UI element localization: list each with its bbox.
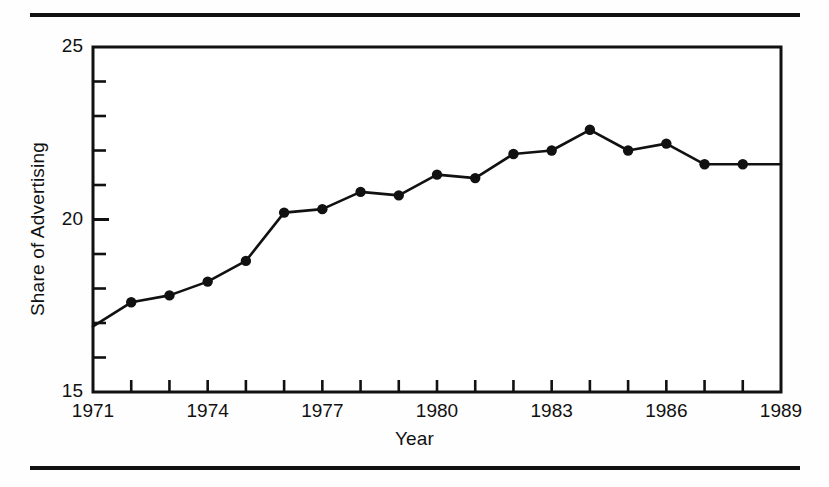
x-tick-label: 1977 — [287, 400, 357, 422]
data-point — [623, 145, 633, 155]
x-tick-label: 1989 — [746, 400, 816, 422]
data-point — [279, 207, 289, 217]
y-tick-label: 25 — [43, 35, 83, 57]
data-point — [738, 159, 748, 169]
data-point — [355, 187, 365, 197]
data-point — [394, 190, 404, 200]
data-point — [126, 297, 136, 307]
data-point — [432, 169, 442, 179]
data-point — [661, 138, 671, 148]
x-tick-label: 1983 — [517, 400, 587, 422]
x-tick-label: 1974 — [173, 400, 243, 422]
data-point — [241, 256, 251, 266]
x-tick-label: 1971 — [58, 400, 128, 422]
data-point — [546, 145, 556, 155]
data-point — [202, 276, 212, 286]
x-tick-label: 1980 — [402, 400, 472, 422]
data-point — [317, 204, 327, 214]
data-point — [699, 159, 709, 169]
x-axis-title: Year — [0, 428, 829, 450]
data-point — [164, 290, 174, 300]
data-point — [470, 173, 480, 183]
plot-frame — [93, 47, 781, 392]
data-point — [585, 125, 595, 135]
data-point — [508, 149, 518, 159]
y-tick-label: 15 — [43, 380, 83, 402]
figure-container: Share of Advertising Year 152025 1971197… — [0, 0, 829, 487]
y-tick-label: 20 — [43, 208, 83, 230]
x-tick-label: 1986 — [631, 400, 701, 422]
